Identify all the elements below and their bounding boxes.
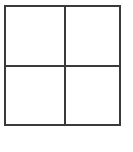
horizontal-divider	[6, 65, 119, 67]
cell-bottom-left	[6, 67, 64, 124]
cell-top-right	[66, 7, 119, 65]
cell-bottom-right	[66, 67, 119, 124]
cell-top-left	[6, 7, 64, 65]
grid-2x2	[4, 5, 121, 126]
